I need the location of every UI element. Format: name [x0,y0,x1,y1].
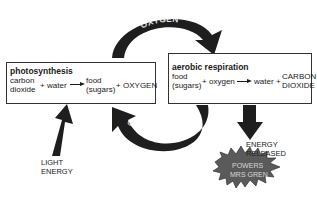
oxygen-arrow: OXYGEN [112,15,222,58]
photo-reactant-carbon: carbon [10,76,34,85]
photo-reactant-water: water [47,81,67,90]
resp-plus-2: + [276,77,281,86]
light-energy-arrow [52,104,73,156]
photo-product-food: food [86,76,102,85]
carbon-dioxide-arrow-label: CARBON DIOXIDE [126,117,191,133]
photo-plus-1: + [40,81,45,90]
resp-reactant-sugars: (sugars) [172,81,201,90]
photosynthesis-title: photosynthesis [10,66,73,76]
carbon-dioxide-arrow: CARBON DIOXIDE [112,105,208,151]
resp-product-carbon: CARBON [282,72,316,81]
starburst-label-line1: POWERS [232,161,263,170]
photo-yield-arrowhead [80,82,85,86]
energy-released-label-line1: ENERGY [246,140,278,149]
resp-product-dioxide: DIOXIDE [282,81,315,90]
photosynthesis-box: photosynthesis carbon dioxide + water fo… [6,62,156,104]
respiration-box: aerobic respiration food (sugars) + oxyg… [168,53,312,104]
photo-plus-2: + [116,81,121,90]
respiration-title: aerobic respiration [172,62,249,72]
photo-product-oxygen: OXYGEN [123,81,157,90]
energy-released-arrow [237,105,263,140]
photo-product-sugars: (sugars) [86,85,115,94]
light-energy-label-line1: LIGHT [41,158,63,167]
resp-reactant-food: food [172,72,188,81]
svg-text:CARBON DIOXIDE: CARBON DIOXIDE [126,117,191,133]
starburst-label-line2: MRS GREN [230,170,268,179]
resp-yield-arrowhead [247,79,252,83]
resp-plus-1: + [202,77,207,86]
energy-released-label-line2: RELEASED [246,149,286,158]
photo-reactant-dioxide: dioxide [10,85,35,94]
resp-product-water: water [254,77,274,86]
light-energy-label-line2: ENERGY [41,167,73,176]
resp-reactant-oxygen: oxygen [209,77,235,86]
